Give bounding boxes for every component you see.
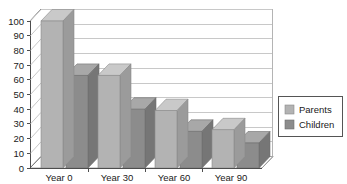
legend-swatch-parents: [285, 105, 294, 114]
bar-parents-year-60[interactable]: [155, 99, 188, 168]
bar-front-face: [212, 130, 234, 168]
bar-side-face: [120, 64, 131, 168]
y-tick-label-70: 70: [13, 60, 24, 71]
x-axis: Year 0 Year 30 Year 60 Year 90: [30, 169, 262, 184]
y-tick-label-0: 0: [19, 163, 24, 174]
legend-item-children[interactable]: Children: [285, 119, 334, 130]
x-tick-label-year-90: Year 90: [215, 172, 247, 183]
legend[interactable]: Parents Children: [279, 97, 343, 137]
bar-chart: 100 90 80 70 60 50 40 30 20 10 0: [0, 0, 347, 184]
bar-side-face: [88, 64, 99, 168]
y-tick-label-50: 50: [13, 89, 24, 100]
legend-item-parents[interactable]: Parents: [285, 104, 332, 115]
bar-front-face: [98, 75, 120, 168]
chart-canvas: 100 90 80 70 60 50 40 30 20 10 0: [0, 0, 347, 184]
bar-parents-year-0[interactable]: [41, 10, 74, 169]
y-tick-label-10: 10: [13, 148, 24, 159]
bar-side-face: [145, 98, 156, 168]
y-tick-label-30: 30: [13, 118, 24, 129]
y-tick-label-100: 100: [8, 16, 24, 27]
y-axis: 100 90 80 70 60 50 40 30 20 10 0: [8, 10, 41, 174]
legend-label-parents: Parents: [299, 104, 332, 115]
bar-front-face: [155, 111, 177, 168]
x-tick-label-year-30: Year 30: [101, 172, 133, 183]
y-tick-label-40: 40: [13, 104, 24, 115]
y-tick-label-60: 60: [13, 74, 24, 85]
bar-side-face: [63, 10, 74, 169]
bar-side-face: [177, 99, 188, 168]
bar-parents-year-90[interactable]: [212, 118, 245, 168]
legend-swatch-children: [285, 120, 294, 129]
y-tick-label-90: 90: [13, 30, 24, 41]
bar-parents-year-30[interactable]: [98, 64, 131, 168]
legend-box: [279, 97, 343, 137]
y-tick-depth-lines: [31, 10, 42, 154]
x-tick-label-year-0: Year 0: [45, 172, 72, 183]
x-tick-label-year-60: Year 60: [158, 172, 190, 183]
legend-label-children: Children: [299, 119, 334, 130]
bar-front-face: [41, 21, 63, 168]
y-tick-label-80: 80: [13, 45, 24, 56]
y-tick-label-20: 20: [13, 133, 24, 144]
